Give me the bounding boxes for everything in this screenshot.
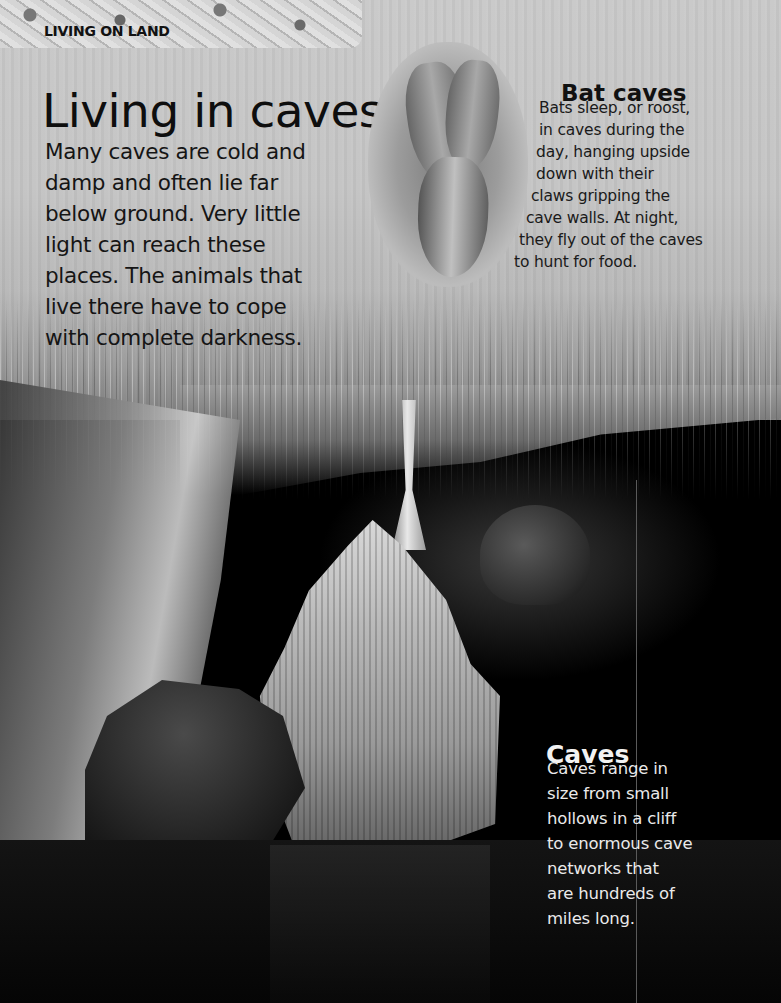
caves-line: size from small [547,781,777,806]
bat-caves-line: Bats sleep, or roost, [539,97,778,119]
intro-line: with complete darkness. [45,322,345,353]
bat-caves-line: they fly out of the caves [519,229,778,251]
bat-caves-line: down with their [536,163,778,185]
bat-caves-line: claws gripping the [531,185,778,207]
intro-line: live there have to cope [45,291,345,322]
cave-boulder [480,505,590,605]
caves-line: are hundreds of [547,881,777,906]
caves-line: networks that [547,856,777,881]
section-header-band: LIVING ON LAND [0,0,362,48]
roosting-bats-illustration [368,42,528,287]
bat-caves-line: day, hanging upside [536,141,778,163]
intro-line: below ground. Very little [45,198,345,229]
bat-icon [416,156,490,278]
intro-line: places. The animals that [45,260,345,291]
intro-line: Many caves are cold and [45,136,345,167]
intro-line: damp and often lie far [45,167,345,198]
caves-line: miles long. [547,906,777,931]
book-page: LIVING ON LAND Living in caves Many cave… [0,0,781,1003]
bat-caves-line: in caves during the [539,119,778,141]
caves-line: to enormous cave [547,831,777,856]
formation-reflection [270,845,490,1003]
bat-caves-line: cave walls. At night, [526,207,778,229]
bat-caves-text: Bats sleep, or roost, in caves during th… [528,97,778,273]
caves-line: Caves range in [547,756,777,781]
section-label: LIVING ON LAND [44,23,170,39]
intro-paragraph: Many caves are cold and damp and often l… [45,136,345,353]
bat-caves-line: to hunt for food. [514,251,778,273]
page-title: Living in caves [42,87,383,134]
caves-line: hollows in a cliff [547,806,777,831]
caves-text: Caves range in size from small hollows i… [547,756,777,931]
intro-line: light can reach these [45,229,345,260]
